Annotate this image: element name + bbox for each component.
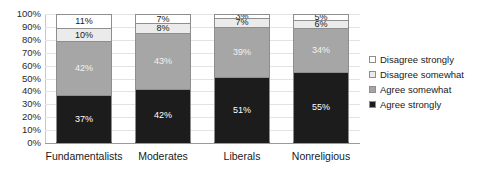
legend-swatch-icon [369, 71, 376, 78]
bar-segment-value-label: 51% [233, 106, 251, 115]
bar-segment-value-label: 6% [314, 20, 327, 28]
legend-item-label: Disagree strongly [380, 54, 454, 65]
bar-segment[interactable]: 39% [214, 27, 270, 77]
legend-item-label: Agree strongly [380, 99, 441, 110]
legend-swatch-icon [369, 56, 376, 63]
bar-segment[interactable]: 42% [135, 89, 191, 143]
chart-title-cropped [0, 0, 483, 9]
x-axis-line [45, 143, 360, 144]
bar-segment[interactable]: 10% [56, 28, 112, 41]
bar-segment[interactable]: 51% [214, 77, 270, 143]
y-axis-tick-label: 10% [22, 125, 41, 135]
legend-item[interactable]: Agree somewhat [369, 82, 483, 96]
y-axis-tick-label: 50% [22, 74, 41, 84]
bar-segment-value-label: 8% [156, 24, 169, 33]
y-axis-tick-label: 70% [22, 48, 41, 58]
bar-segment[interactable]: 42% [56, 41, 112, 95]
y-axis-tick-label: 30% [22, 99, 41, 109]
bar-segment-value-label: 7% [156, 15, 169, 24]
bar-segment[interactable]: 55% [293, 72, 349, 143]
y-axis-tick-label: 0% [27, 138, 41, 148]
legend-swatch-icon [369, 101, 376, 108]
bar-moderates[interactable]: 7%8%43%42% [135, 14, 191, 143]
bar-segment[interactable]: 7% [214, 18, 270, 27]
x-axis-label-nonreligious: Nonreligious [266, 150, 376, 163]
legend-item-label: Disagree somewhat [380, 69, 464, 80]
bar-liberals[interactable]: 3%7%39%51% [214, 14, 270, 143]
bar-nonreligious[interactable]: 5%6%34%55% [293, 14, 349, 143]
bar-segment[interactable]: 34% [293, 28, 349, 72]
y-axis-tick-label: 100% [17, 9, 41, 19]
bar-segment-value-label: 39% [233, 48, 251, 57]
legend-item[interactable]: Disagree somewhat [369, 67, 483, 81]
bar-segment[interactable]: 8% [135, 23, 191, 33]
y-axis-tick-label: 80% [22, 35, 41, 45]
legend-item[interactable]: Disagree strongly [369, 52, 483, 66]
bar-segment[interactable]: 43% [135, 33, 191, 88]
bar-segment-value-label: 11% [75, 17, 92, 26]
legend-swatch-icon [369, 86, 376, 93]
bar-segment-value-label: 7% [235, 18, 248, 27]
bar-segment[interactable]: 37% [56, 95, 112, 143]
bar-segment-value-label: 34% [312, 46, 330, 55]
x-axis-category-labels: FundamentalistsModeratesLiberalsNonrelig… [45, 150, 360, 166]
y-axis-tick-label: 90% [22, 22, 41, 32]
bar-segment-value-label: 42% [75, 64, 93, 73]
bar-segment[interactable]: 7% [135, 14, 191, 23]
y-axis-tick-label: 20% [22, 112, 41, 122]
bar-segment-value-label: 37% [75, 115, 93, 124]
chart-legend: Disagree stronglyDisagree somewhatAgree … [369, 52, 483, 112]
bar-segment-value-label: 42% [154, 111, 172, 120]
bar-fundamentalists[interactable]: 11%10%42%37% [56, 14, 112, 143]
bar-segment-value-label: 10% [75, 31, 93, 40]
legend-item[interactable]: Agree strongly [369, 97, 483, 111]
y-axis-tick-label: 40% [22, 86, 41, 96]
plot-area: 11%10%42%37%7%8%43%42%3%7%39%51%5%6%34%5… [45, 14, 360, 144]
y-axis: 100%90%80%70%60%50%40%30%20%10%0% [0, 10, 44, 144]
bar-segment[interactable]: 6% [293, 20, 349, 28]
legend-item-label: Agree somewhat [380, 84, 451, 95]
bar-segment-value-label: 43% [154, 57, 172, 66]
bar-segment-value-label: 55% [312, 103, 330, 112]
stacked-bar-chart: 100%90%80%70%60%50%40%30%20%10%0% 11%10%… [0, 0, 483, 177]
y-axis-tick-label: 60% [22, 61, 41, 71]
bar-segment[interactable]: 11% [56, 14, 112, 28]
